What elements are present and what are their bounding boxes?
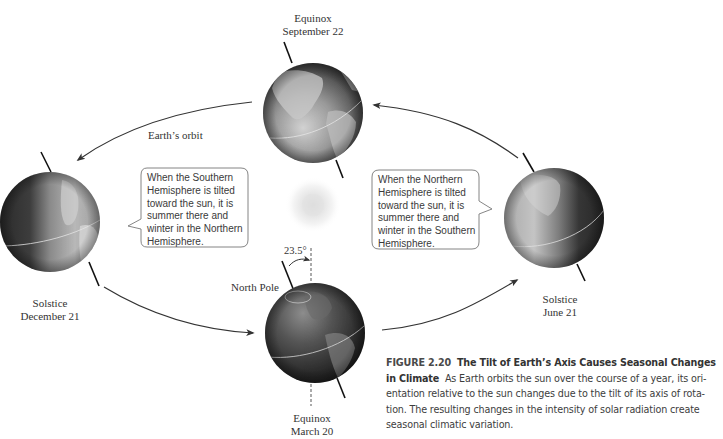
callout-southern-line: winter in the Northern <box>147 223 243 236</box>
callout-southern-line: Hemisphere. <box>147 236 243 249</box>
caption-line-3: entation relative to the sun changes due… <box>386 386 723 402</box>
globe-december <box>0 152 100 286</box>
callout-northern-line: summer there and <box>378 212 474 225</box>
axis-south-june <box>577 264 585 281</box>
callout-southern-line: Hemisphere is tilted <box>147 185 243 198</box>
label-march: Equinox March 20 <box>267 412 357 438</box>
caption-line-2: in Climate As Earth orbits the sun over … <box>386 371 723 387</box>
globe-march <box>265 248 365 406</box>
orbit-arrow-jun-to-sep <box>374 105 518 158</box>
figure-title-cont: in Climate <box>386 373 439 384</box>
callout-southern: When the Southern Hemisphere is tilted t… <box>142 168 248 253</box>
label-september-event: Equinox <box>268 12 358 25</box>
orbit-label: Earth’s orbit <box>148 129 203 142</box>
label-march-date: March 20 <box>267 425 357 438</box>
globe-june <box>504 153 604 281</box>
label-june: Solstice June 21 <box>515 293 605 319</box>
label-december-event: Solstice <box>5 297 95 310</box>
tilt-angle-label: 23.5° <box>284 244 307 257</box>
label-march-event: Equinox <box>267 412 357 425</box>
callout-southern-line: toward the sun, it is <box>147 198 243 211</box>
caption-line-5: seasonal climatic variation. <box>386 417 723 433</box>
axis-south-march <box>337 378 345 398</box>
tilt-angle-arc <box>289 259 309 266</box>
callout-northern-line: toward the sun, it is <box>378 200 474 213</box>
callout-northern-line: Hemisphere is tilted <box>378 187 474 200</box>
label-september: Equinox September 22 <box>268 12 358 38</box>
axis-north-december <box>41 152 51 172</box>
figure-title: The Tilt of Earth’s Axis Causes Seasonal… <box>457 357 716 368</box>
figure-number: FIGURE 2.20 <box>386 357 451 368</box>
label-june-date: June 21 <box>515 306 605 319</box>
label-december-date: December 21 <box>5 310 95 323</box>
globe-september <box>263 42 363 178</box>
axis-north-september <box>284 42 292 63</box>
callout-southern-line: When the Southern <box>147 172 243 185</box>
label-june-event: Solstice <box>515 293 605 306</box>
label-september-date: September 22 <box>268 25 358 38</box>
callout-northern-line: winter in the Southern <box>378 225 474 238</box>
caption-line-1: FIGURE 2.20 The Tilt of Earth’s Axis Cau… <box>386 355 723 371</box>
orbit-arrow-mar-to-jun <box>382 280 517 330</box>
callout-northern: When the Northern Hemisphere is tilted t… <box>373 170 479 255</box>
axis-north-june <box>523 153 534 172</box>
axis-south-december <box>89 262 99 286</box>
axis-south-september <box>336 160 343 178</box>
figure-2-20: Equinox September 22 Solstice December 2… <box>0 0 723 439</box>
callout-northern-line: Hemisphere. <box>378 238 474 251</box>
caption-line-4: tion. The resulting changes in the inten… <box>386 402 723 418</box>
callout-northern-line: When the Northern <box>378 174 474 187</box>
label-december: Solstice December 21 <box>5 297 95 323</box>
callout-southern-line: summer there and <box>147 210 243 223</box>
caption-body: As Earth orbits the sun over the course … <box>445 373 706 384</box>
figure-caption: FIGURE 2.20 The Tilt of Earth’s Axis Cau… <box>386 355 723 433</box>
north-pole-label: North Pole <box>231 281 279 294</box>
sun-core <box>302 194 324 216</box>
